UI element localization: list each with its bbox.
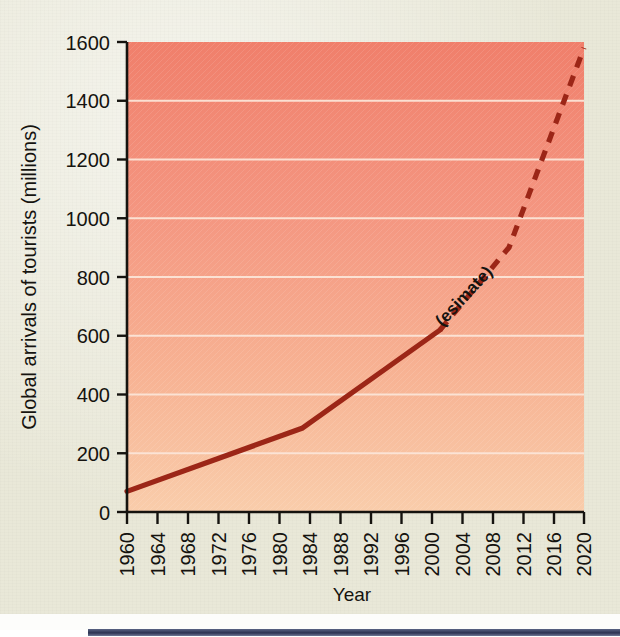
- x-tick-label: 1992: [360, 532, 382, 577]
- y-tick-label: 0: [99, 502, 110, 524]
- y-tick-label: 400: [77, 384, 110, 406]
- page-canvas: (esimate) 1600 1400: [0, 0, 620, 637]
- x-tick-label: 2016: [543, 532, 565, 577]
- x-tick-label: 1984: [299, 532, 321, 577]
- x-tick-label: 2020: [573, 532, 595, 577]
- x-tick-label: 2012: [513, 532, 535, 577]
- y-tick-label: 200: [77, 443, 110, 465]
- x-tick-label: 2004: [452, 532, 474, 577]
- page-footer-rule: [88, 629, 620, 636]
- y-tick-label: 1000: [66, 208, 111, 230]
- y-tick-label: 1200: [66, 149, 111, 171]
- x-tick-label: 1972: [208, 532, 230, 577]
- x-tick-label: 1964: [147, 532, 169, 577]
- y-axis-tick-labels: 1600 1400 1200 1000 800 600 400 200 0: [66, 32, 111, 524]
- x-tick-label: 1980: [269, 532, 291, 577]
- page-margin-strip: [0, 614, 620, 630]
- x-tick-label: 1976: [238, 532, 260, 577]
- y-axis-title: Global arrivals of tourists (millions): [18, 124, 40, 430]
- y-axis-ticks: [117, 42, 127, 512]
- x-axis-tick-labels: 1960 1964 1968 1972 1976 1980 1984 1988 …: [116, 532, 595, 577]
- chart-figure: (esimate) 1600 1400: [0, 0, 620, 614]
- x-tick-label: 2008: [482, 532, 504, 577]
- y-tick-label: 600: [77, 325, 110, 347]
- x-tick-label: 1988: [330, 532, 352, 577]
- y-tick-label: 800: [77, 267, 110, 289]
- x-axis-title: Year: [333, 584, 372, 605]
- x-tick-label: 1996: [391, 532, 413, 577]
- x-tick-label: 2000: [421, 532, 443, 577]
- x-axis-ticks: [127, 512, 584, 524]
- x-tick-label: 1960: [116, 532, 138, 577]
- y-tick-label: 1400: [66, 90, 111, 112]
- tourism-line-chart: (esimate) 1600 1400: [0, 0, 620, 614]
- x-tick-label: 1968: [177, 532, 199, 577]
- y-tick-label: 1600: [66, 32, 111, 54]
